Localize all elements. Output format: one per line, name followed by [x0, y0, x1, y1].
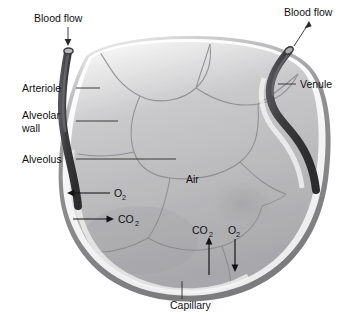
alveolus-label: Alveolus	[22, 153, 62, 165]
diagram-canvas: Blood flow Blood flow Arteriole Alveolar…	[0, 0, 352, 322]
o2-left-label: O	[114, 187, 122, 199]
co2-left-label: CO	[118, 213, 134, 225]
co2-left-subscript: 2	[135, 219, 139, 228]
arteriole-opening	[64, 48, 73, 54]
blood-flow-out-label: Blood flow	[284, 6, 333, 18]
alveolar-wall-label-line1: Alveolar	[22, 109, 60, 121]
blood-flow-out-leader	[294, 26, 307, 46]
co2-bottom-subscript: 2	[209, 230, 213, 239]
alveolar-wall-label-line2: wall	[21, 122, 40, 134]
capillary-label: Capillary	[170, 299, 212, 311]
blood-flow-in-label: Blood flow	[34, 12, 83, 24]
co2-bottom-label: CO	[192, 224, 208, 236]
o2-left-subscript: 2	[122, 193, 126, 202]
interior-shading	[186, 164, 278, 228]
o2-bottom-subscript: 2	[236, 230, 240, 239]
arteriole-label: Arteriole	[22, 82, 61, 94]
blood-flow-in-group: Blood flow	[34, 12, 83, 46]
venule-label: Venule	[300, 78, 332, 90]
blood-flow-in-arrowhead	[65, 39, 72, 46]
alveolus-body	[59, 36, 331, 302]
alveolus-diagram: Blood flow Blood flow Arteriole Alveolar…	[0, 0, 352, 322]
o2-bottom-label: O	[228, 224, 236, 236]
blood-flow-out-arrowhead	[305, 21, 312, 29]
air-label: Air	[186, 173, 199, 185]
blood-flow-out-group: Blood flow	[284, 6, 333, 46]
